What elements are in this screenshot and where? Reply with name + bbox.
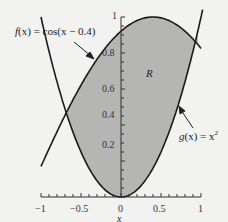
g-label-expression: (x) = x — [185, 130, 215, 142]
x-tick-label: −0.5 — [70, 204, 88, 214]
x-tick-label: −1 — [35, 204, 46, 214]
x-tick-label: 1 — [198, 204, 203, 214]
arrow-g-label — [179, 106, 193, 128]
y-tick-label: 0.6 — [102, 84, 115, 94]
g-function-label: g(x) = x2 — [179, 130, 218, 142]
y-tick-label: 1 — [112, 11, 117, 21]
f-label-expression: (x) = cos(x − 0.4) — [18, 25, 95, 37]
region-label: R — [146, 68, 153, 79]
x-axis-label: x — [117, 214, 121, 222]
f-function-label: f(x) = cos(x − 0.4) — [15, 26, 96, 37]
y-tick-label: 0.8 — [102, 48, 115, 58]
y-tick-label: 0.4 — [102, 110, 115, 120]
g-label-exponent: 2 — [215, 129, 219, 137]
x-tick-label: 0.5 — [153, 204, 166, 214]
y-tick-label: 0.2 — [102, 140, 115, 150]
arrow-f-label — [74, 42, 94, 59]
